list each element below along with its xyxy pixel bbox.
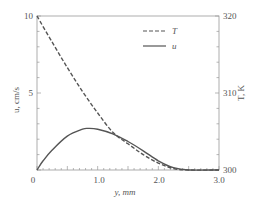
y-tick-10: 10 — [24, 11, 34, 21]
chart: 10 5 0 1.0 2.0 3.0 320 310 300 y, mm u, … — [0, 0, 262, 202]
plot-frame — [37, 16, 219, 170]
y-axis-label: u, cm/s — [11, 87, 21, 113]
axis-ticks — [37, 16, 219, 170]
series-u-line — [37, 128, 219, 170]
x-axis-label: y, mm — [114, 187, 136, 197]
y2-axis-label: T, K — [236, 85, 246, 101]
x-tick-2: 2.0 — [153, 175, 165, 185]
y-tick-0: 0 — [31, 175, 36, 185]
series-T-line — [37, 16, 219, 170]
y2-tick-300: 300 — [223, 165, 237, 175]
legend-u-label: u — [172, 41, 177, 51]
x-tick-3: 3.0 — [213, 175, 225, 185]
y2-tick-320: 320 — [223, 11, 237, 21]
legend-T-label: T — [172, 26, 178, 36]
y-tick-5: 5 — [29, 88, 34, 98]
y2-tick-310: 310 — [223, 88, 237, 98]
legend: T u — [143, 26, 178, 51]
x-tick-1: 1.0 — [93, 175, 105, 185]
